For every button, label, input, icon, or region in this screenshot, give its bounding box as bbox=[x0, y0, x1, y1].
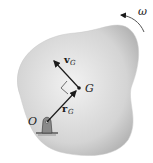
position-vector-subscript: G bbox=[68, 108, 74, 116]
omega-label: ω bbox=[138, 5, 147, 18]
rigid-body bbox=[17, 25, 138, 155]
velocity-vector-subscript: G bbox=[70, 59, 76, 67]
rigid-body-diagram: ω O r G G v G bbox=[0, 0, 153, 163]
origin-label: O bbox=[28, 115, 37, 128]
center-of-mass-label: G bbox=[85, 82, 94, 95]
